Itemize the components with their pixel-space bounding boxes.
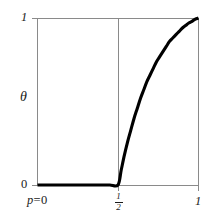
x-axis-label-one-half: 1 2 [112,192,125,213]
fraction-denominator: 2 [112,203,125,212]
theta-curve [38,18,199,186]
x-axis-label-p-equals-zero: p=0 [27,194,47,207]
x-axis-label-one: 1 [195,195,201,208]
y-axis-label-one: 1 [21,11,27,24]
x-axis-value-zero: 0 [41,193,48,207]
x-axis-equals-sign: = [34,193,41,207]
curve-canvas [0,0,214,218]
y-axis-label-zero: 0 [21,178,27,191]
plot-figure: 1 0 θ p=0 1 2 1 [0,0,214,218]
fraction-numerator: 1 [112,192,125,201]
y-axis-title-theta: θ [20,90,27,104]
